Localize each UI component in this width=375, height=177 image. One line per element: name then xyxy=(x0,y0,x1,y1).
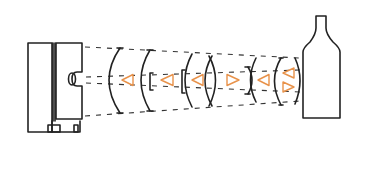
lens-2 xyxy=(141,50,150,111)
lens-group xyxy=(109,48,300,113)
triangle-right-icon xyxy=(283,82,294,92)
source-housing xyxy=(28,43,82,132)
triangle-left-icon xyxy=(258,75,269,86)
lens-6-back xyxy=(209,56,216,106)
lens-1 xyxy=(109,48,120,113)
housing-base xyxy=(52,121,80,132)
housing-foot xyxy=(48,125,60,132)
triangle-left-icon xyxy=(192,75,203,86)
housing-foot-small xyxy=(74,125,78,132)
optical-diagram xyxy=(0,0,375,177)
triangle-right-icon xyxy=(161,75,173,86)
bottle-icon xyxy=(303,16,340,118)
lens-9-back xyxy=(295,58,300,104)
lens-5 xyxy=(185,54,192,107)
triangle-left-icon xyxy=(283,68,294,78)
housing-left-panel xyxy=(28,43,52,132)
lens-9-front xyxy=(275,58,282,105)
triangle-right-icon xyxy=(227,75,239,86)
lens-3-bracket xyxy=(150,73,153,90)
lens-6 xyxy=(205,56,212,106)
bottle-target xyxy=(303,16,340,118)
beam-lines xyxy=(85,47,300,116)
